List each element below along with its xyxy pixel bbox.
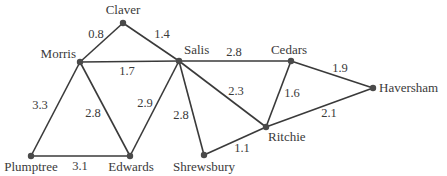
node-label-morris: Morris — [41, 46, 76, 61]
node-cedars — [288, 58, 294, 64]
edge-claver-salis — [123, 23, 179, 61]
edge-weight-label: 1.9 — [332, 61, 348, 75]
edge-weight-label: 1.6 — [284, 86, 300, 100]
node-shrewsbury — [201, 152, 207, 158]
node-label-shrewsbury: Shrewsbury — [173, 159, 236, 174]
edge-weight-label: 2.8 — [173, 108, 189, 122]
node-label-haversham: Haversham — [379, 80, 438, 95]
node-haversham — [370, 85, 376, 91]
nodes-layer — [28, 20, 376, 159]
node-claver — [120, 20, 126, 26]
node-label-plumptree: Plumptree — [4, 159, 58, 174]
node-label-edwards: Edwards — [108, 159, 154, 174]
edge-weight-label: 2.9 — [137, 96, 153, 110]
edge-weight-label: 2.3 — [228, 84, 244, 98]
node-salis — [176, 58, 182, 64]
edge-weight-label: 1.7 — [119, 64, 135, 78]
edge-weight-label: 2.8 — [85, 106, 101, 120]
weighted-graph-diagram: 0.81.41.72.81.92.31.62.12.82.91.13.32.83… — [0, 0, 447, 176]
edge-weight-label: 0.8 — [88, 27, 104, 41]
edge-haversham-ritchie — [266, 88, 373, 127]
node-label-cedars: Cedars — [271, 42, 307, 57]
edge-weight-label: 1.4 — [154, 27, 170, 41]
node-morris — [77, 59, 83, 65]
edge-salis-ritchie — [179, 61, 266, 127]
edge-weight-label: 2.8 — [226, 45, 242, 59]
node-label-salis: Salis — [184, 42, 209, 57]
edge-morris-salis — [80, 61, 179, 62]
edge-weight-label: 3.1 — [72, 159, 88, 173]
node-label-claver: Claver — [106, 2, 141, 17]
node-label-ritchie: Ritchie — [268, 129, 306, 144]
edge-weight-label: 1.1 — [234, 141, 250, 155]
edge-weight-label: 3.3 — [32, 98, 48, 112]
edge-weight-label: 2.1 — [321, 106, 337, 120]
